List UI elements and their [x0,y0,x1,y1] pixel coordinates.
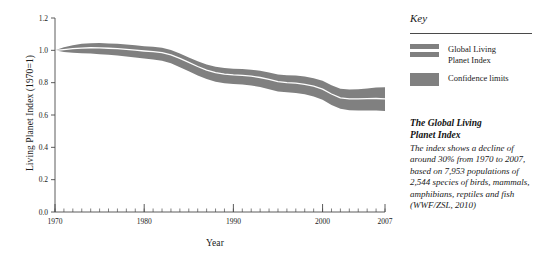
x-axis-title: Year [55,238,375,248]
svg-text:0.8: 0.8 [39,78,49,87]
key-divider [410,33,532,34]
key-heading: Key [410,12,427,24]
svg-text:2000: 2000 [315,217,330,226]
caption-body: The index shows a decline of around 30% … [410,143,537,211]
svg-text:0.0: 0.0 [39,208,49,217]
svg-text:0.6: 0.6 [39,111,49,120]
legend-label-global-living-planet-index: Global Living Planet Index [448,44,496,65]
caption-title-line1: The Global Living [410,118,536,130]
legend-swatch-solid [410,73,439,86]
chart-area: 0.00.20.40.60.81.01.21970198019902000200… [0,0,395,263]
svg-text:1.0: 1.0 [39,46,49,55]
y-axis-title: Living Planet Index (1970=1) [25,23,35,203]
svg-text:0.2: 0.2 [39,175,49,184]
svg-text:1990: 1990 [226,217,241,226]
legend-label-line1: Global Living [448,44,496,55]
svg-text:2007: 2007 [378,217,393,226]
caption-title: The Global Living Planet Index [410,118,536,141]
legend-label-confidence-limits: Confidence limits [448,73,509,84]
living-planet-index-figure: 0.00.20.40.60.81.01.21970198019902000200… [0,0,537,263]
legend-item-global-living-planet-index: Global Living Planet Index [410,44,496,65]
caption-title-line2: Planet Index [410,130,536,142]
legend-label-line2: Planet Index [448,55,496,66]
svg-text:1.2: 1.2 [39,14,49,23]
svg-text:1980: 1980 [137,217,152,226]
legend-swatch-band-with-line [410,44,439,57]
legend-item-confidence-limits: Confidence limits [410,73,509,86]
key-panel: Key Global Living Planet Index Confidenc… [404,0,537,263]
line-band-chart: 0.00.20.40.60.81.01.21970198019902000200… [0,0,395,263]
svg-text:0.4: 0.4 [39,143,49,152]
svg-text:1970: 1970 [48,217,63,226]
